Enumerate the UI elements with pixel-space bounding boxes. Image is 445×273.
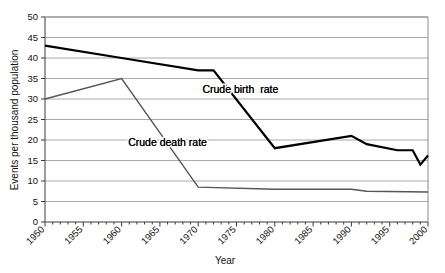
- y-tick-label: 25: [27, 114, 38, 125]
- x-tick-label: 1995: [368, 224, 391, 247]
- y-tick-label: 35: [27, 73, 38, 84]
- y-tick-label: 40: [27, 52, 38, 63]
- line-chart: 05101520253035404550 1950195519601965197…: [0, 0, 445, 273]
- x-tick-label: 1955: [62, 224, 85, 247]
- x-axis-ticks: [45, 222, 428, 227]
- x-tick-labels: 1950195519601965197019751980198519901995…: [24, 224, 430, 247]
- x-tick-label: 1975: [215, 224, 238, 247]
- y-axis-title: Events per thousand population: [9, 50, 20, 191]
- x-tick-label: 1980: [253, 224, 276, 247]
- x-tick-label: 1960: [100, 224, 123, 247]
- x-tick-label: 1950: [24, 224, 47, 247]
- chart-container: 05101520253035404550 1950195519601965197…: [0, 0, 445, 273]
- y-tick-label: 5: [33, 196, 38, 207]
- y-tick-label: 30: [27, 93, 38, 104]
- x-tick-label: 1990: [330, 224, 353, 247]
- y-tick-label: 50: [27, 11, 38, 22]
- x-tick-label: 1970: [177, 224, 200, 247]
- y-tick-label: 10: [27, 175, 38, 186]
- series-annotation-crude-death-rate: Crude death rate: [128, 136, 207, 148]
- y-tick-label: 45: [27, 32, 38, 43]
- x-tick-label: 1965: [139, 224, 162, 247]
- x-axis-title: Year: [215, 255, 236, 266]
- x-tick-label: 1985: [292, 224, 315, 247]
- x-tick-label: 2000: [407, 224, 430, 247]
- y-axis-ticks: [41, 17, 45, 222]
- series-annotation-crude-birth-rate: Crude birth rate: [202, 83, 278, 95]
- y-tick-labels: 05101520253035404550: [27, 11, 38, 227]
- y-tick-label: 20: [27, 134, 38, 145]
- y-tick-label: 15: [27, 155, 38, 166]
